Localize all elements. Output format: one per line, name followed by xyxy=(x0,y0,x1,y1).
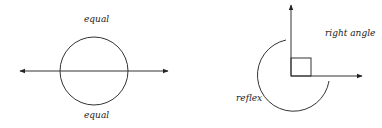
label-equal-top: equal xyxy=(84,14,109,24)
circle-figure xyxy=(20,37,168,105)
label-reflex: reflex xyxy=(236,93,262,103)
diagram-canvas xyxy=(0,0,382,128)
angle-figure xyxy=(257,5,362,111)
right-angle-marker xyxy=(291,58,311,76)
label-right-angle: right angle xyxy=(325,28,375,38)
label-equal-bottom: equal xyxy=(84,110,109,120)
